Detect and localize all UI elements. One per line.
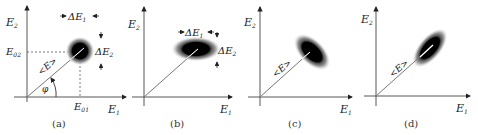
noise-ellipse (288, 28, 336, 76)
delta-e1-label: ΔE1 (184, 27, 203, 39)
panel-b: E2 E1 ΔE1 ΔE2 (b) (127, 7, 237, 129)
e01-label: E01 (73, 101, 89, 113)
y-axis-label: E2 (243, 16, 256, 29)
delta-e2-label: ΔE2 (217, 45, 237, 57)
y-axis-label: E2 (360, 13, 373, 26)
caption-d: (d) (404, 118, 418, 129)
caption-a: (a) (52, 118, 66, 129)
x-axis-label: E1 (219, 103, 232, 116)
panel-d: E2 E1 <E> (d) (360, 7, 470, 129)
caption-c: (c) (288, 118, 302, 129)
panel-c: E2 E1 <E> (c) (243, 7, 352, 129)
y-axis-label: E2 (127, 18, 140, 31)
delta-e2-label: ΔE2 (94, 46, 114, 58)
x-axis-label: E1 (455, 102, 468, 115)
x-axis-label: E1 (339, 103, 352, 116)
angle-arc (51, 78, 56, 97)
noise-ellipse (172, 37, 220, 61)
phasor-label: <E> (36, 55, 59, 77)
delta-e1-label: ΔE1 (67, 11, 86, 23)
e02-label: E02 (5, 46, 21, 58)
quadrature-phasor-figure: E2 E1 E02 E01 <E> φ ΔE1 ΔE2 (a) E2 E1 (0, 0, 478, 135)
x-axis-label: E1 (107, 103, 120, 116)
y-axis-label: E2 (5, 16, 18, 29)
phasor-label: <E> (270, 58, 293, 80)
angle-label: φ (42, 84, 49, 94)
caption-b: (b) (170, 118, 184, 129)
panel-a: E2 E1 E02 E01 <E> φ ΔE1 ΔE2 (a) (5, 6, 126, 129)
